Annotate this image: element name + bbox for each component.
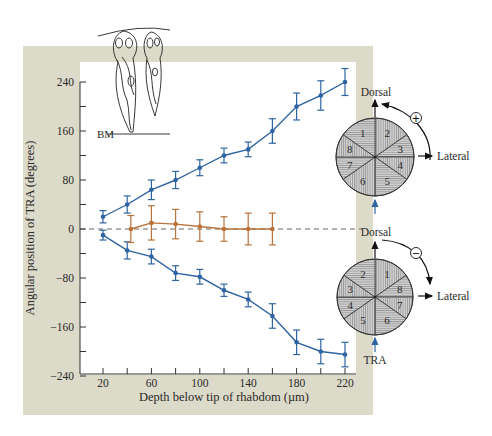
sector-number: 7 (397, 299, 403, 311)
y-tick-label: 0 (68, 223, 74, 235)
y-tick-label: 240 (57, 76, 75, 88)
sector-number: 7 (347, 159, 353, 171)
sector-number: 8 (347, 143, 353, 155)
x-axis-label: Depth below tip of rhabdom (µm) (139, 390, 309, 404)
data-point (343, 352, 348, 357)
data-point (198, 274, 203, 279)
data-point (294, 340, 299, 345)
sector-number: 2 (384, 127, 390, 139)
data-point (319, 93, 324, 98)
data-point (222, 288, 227, 293)
sector-number: 5 (360, 314, 366, 326)
data-point (246, 147, 251, 152)
x-tick-label: 140 (240, 377, 258, 389)
data-point (246, 297, 251, 302)
sector-number: 8 (397, 283, 403, 295)
lateral-label-top: Lateral (437, 150, 470, 162)
sector-number: 5 (384, 175, 390, 187)
data-point (149, 221, 154, 226)
x-tick-label: 20 (97, 377, 109, 389)
data-point (125, 202, 130, 207)
data-point (222, 227, 227, 232)
sector-number: 3 (398, 143, 404, 155)
x-tick-label: 220 (336, 377, 354, 389)
sector-number: 6 (384, 314, 390, 326)
data-point (173, 222, 178, 227)
sector-number: 4 (398, 159, 404, 171)
sector-number: 2 (360, 268, 366, 280)
sector-number: 6 (360, 175, 366, 187)
data-point (270, 129, 275, 134)
data-point (173, 271, 178, 276)
y-tick-label: 160 (57, 125, 75, 137)
pinwheel-negative: 18765432 (337, 259, 413, 335)
pinwheel-positive: 23456781 (336, 118, 414, 196)
y-tick-label: −80 (56, 272, 74, 284)
sector-number: 3 (348, 283, 354, 295)
x-tick-label: 180 (288, 377, 306, 389)
data-point (149, 188, 154, 193)
sector-number: 1 (384, 268, 390, 280)
y-tick-label: −160 (50, 321, 74, 333)
lateral-label-bottom: Lateral (437, 290, 470, 302)
tra-label: TRA (364, 354, 388, 366)
data-point (343, 80, 348, 85)
data-point (129, 227, 134, 232)
data-point (125, 248, 130, 253)
data-point (319, 349, 324, 354)
y-tick-label: 80 (63, 174, 75, 186)
data-point (198, 224, 203, 229)
data-point (222, 153, 227, 158)
data-point (101, 214, 106, 219)
data-point (294, 104, 299, 109)
bm-label: BM (97, 128, 114, 140)
data-point (246, 227, 251, 232)
chart-figure: 240160800−80−160−240 2060100140180220 An… (0, 0, 492, 436)
data-point (270, 227, 275, 232)
dorsal-label-bottom: Dorsal (361, 226, 392, 238)
data-point (149, 254, 154, 259)
y-axis-label: Angular position of TRA (degrees) (23, 141, 37, 316)
data-point (270, 314, 275, 319)
rotation-sign: + (412, 113, 420, 124)
sector-number: 1 (360, 127, 366, 139)
data-point (101, 233, 106, 238)
rotation-sign: − (412, 248, 420, 259)
x-tick-label: 100 (191, 377, 209, 389)
y-tick-label: −240 (50, 370, 74, 382)
dorsal-label-top: Dorsal (361, 86, 392, 98)
x-tick-label: 60 (146, 377, 158, 389)
data-point (198, 165, 203, 170)
plot-area (80, 62, 356, 375)
data-point (173, 178, 178, 183)
sector-number: 4 (348, 299, 354, 311)
